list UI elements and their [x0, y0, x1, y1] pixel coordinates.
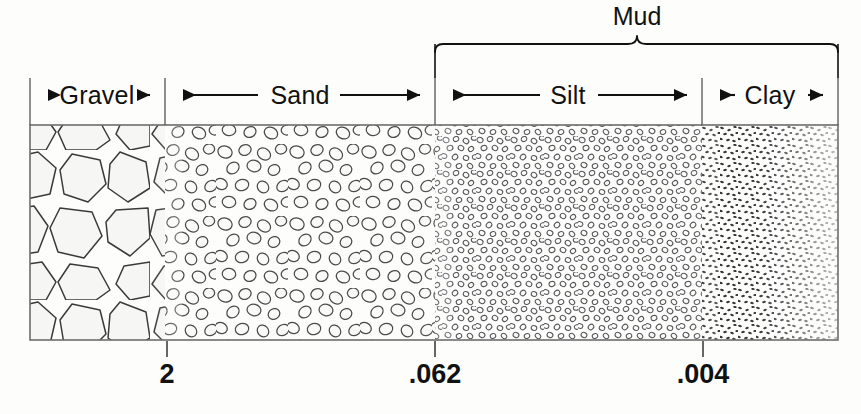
tick-label-062: .062	[409, 359, 462, 389]
tick-label-004: .004	[677, 359, 730, 389]
silt-class-label: Silt	[550, 81, 586, 109]
gravel-class-label: Gravel	[60, 81, 135, 109]
tick-label-2: 2	[159, 359, 174, 389]
mud-bracket	[435, 36, 838, 78]
sand-class-label: Sand	[270, 81, 329, 109]
clay-texture	[702, 125, 838, 340]
mud-brace-path	[435, 36, 838, 52]
grain-texture-panel	[30, 125, 838, 340]
mud-brace-stems	[435, 44, 838, 78]
class-divider-lines	[30, 78, 838, 125]
gravel-texture	[30, 125, 167, 340]
grain-size-classification-diagram: Mud Gravel Sand Silt Clay 2 .062 .004	[0, 0, 861, 414]
mud-group-label: Mud	[613, 2, 662, 30]
silt-texture	[435, 125, 704, 340]
size-axis: 2 .062 .004	[159, 341, 729, 389]
sand-texture	[165, 125, 437, 340]
diagram-canvas: Mud Gravel Sand Silt Clay 2 .062 .004	[0, 0, 861, 414]
clay-class-label: Clay	[745, 81, 796, 109]
